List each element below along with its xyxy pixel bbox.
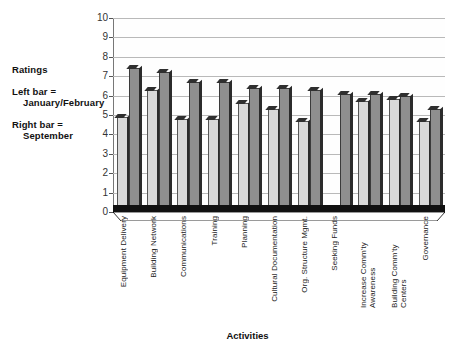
bar-top-face xyxy=(265,106,277,110)
bar-top-face xyxy=(126,65,138,69)
bar-jan-feb xyxy=(419,121,430,212)
legend-ratings-label: Ratings xyxy=(12,64,112,75)
x-axis-category-label: Building Network xyxy=(149,216,158,278)
bar-september xyxy=(370,94,381,212)
bar-jan-feb xyxy=(177,119,188,212)
bar-jan-feb xyxy=(147,90,158,212)
x-axis-category-label: Planning xyxy=(240,216,249,248)
bar-september xyxy=(310,90,321,212)
bar-top-face xyxy=(416,118,428,122)
x-axis-category-label: Training xyxy=(210,216,219,245)
bar-september xyxy=(219,82,230,212)
x-axis-category-label: Building Comm'ty Centers xyxy=(391,216,408,308)
y-axis-tick-label: 4 xyxy=(102,129,108,139)
x-axis-category-label: Seeking Funds xyxy=(330,216,339,271)
chart-figure: Ratings Left bar = January/February Righ… xyxy=(0,0,459,353)
bar-top-face xyxy=(175,116,187,120)
bar-top-face xyxy=(428,106,440,110)
bar-top-face xyxy=(205,116,217,120)
bar-top-face xyxy=(186,79,198,83)
legend-right-bar-line2: September xyxy=(12,130,112,141)
bar-group xyxy=(234,18,264,212)
bar-top-face xyxy=(356,98,368,102)
x-axis-category-label: Org. Structure Mgmt. xyxy=(300,216,309,293)
x-axis-category-label: Cultural Documentation xyxy=(270,216,279,302)
bar-top-face xyxy=(386,96,398,100)
bar-top-face xyxy=(367,91,379,95)
y-axis-tick-label: 2 xyxy=(102,168,108,178)
bar-september xyxy=(279,88,290,212)
bar-september xyxy=(249,88,260,212)
bar-jan-feb xyxy=(389,99,400,212)
bar-side-face xyxy=(199,80,202,210)
legend-spacer-1 xyxy=(12,75,112,86)
y-axis-tick-label: 7 xyxy=(102,71,108,81)
bar-side-face xyxy=(169,70,172,210)
bar-group xyxy=(264,18,294,212)
bar-top-face xyxy=(307,87,319,91)
bar-top-face xyxy=(277,85,289,89)
bar-group xyxy=(385,18,415,212)
bar-jan-feb xyxy=(298,121,309,212)
bar-top-face xyxy=(156,69,168,73)
bar-group xyxy=(143,18,173,212)
x-axis-category-label: Communications xyxy=(179,216,188,277)
bar-jan-feb xyxy=(238,103,249,212)
x-axis-category-label: Equipment Delivery xyxy=(119,216,128,287)
bar-group xyxy=(354,18,384,212)
bar-side-face xyxy=(259,86,262,211)
y-axis-tick-label: 8 xyxy=(102,52,108,62)
plot-area: 012345678910 xyxy=(113,18,445,212)
bar-group xyxy=(294,18,324,212)
y-axis-tick-label: 9 xyxy=(102,32,108,42)
bar-top-face xyxy=(337,91,349,95)
bar-side-face xyxy=(350,91,353,210)
bar-side-face xyxy=(440,107,443,210)
bar-september xyxy=(430,109,441,212)
bar-group xyxy=(415,18,445,212)
bar-top-face xyxy=(144,87,156,91)
y-axis-tick-label: 1 xyxy=(102,188,108,198)
bar-group xyxy=(324,18,354,212)
chart-legend: Ratings Left bar = January/February Righ… xyxy=(12,64,112,141)
legend-right-bar-line1: Right bar = xyxy=(12,119,112,130)
x-axis-category-label: Governance xyxy=(421,216,430,261)
bar-top-face xyxy=(397,93,409,97)
bar-side-face xyxy=(410,93,413,210)
legend-left-bar-line1: Left bar = xyxy=(12,86,112,97)
bar-group xyxy=(113,18,143,212)
bar-september xyxy=(159,72,170,212)
bar-september xyxy=(129,68,140,212)
bar-jan-feb xyxy=(117,117,128,212)
x-axis-title-text: Activities xyxy=(226,330,268,341)
bar-september xyxy=(400,96,411,212)
y-axis-tick-label: 6 xyxy=(102,91,108,101)
bar-group xyxy=(173,18,203,212)
bar-top-face xyxy=(247,85,259,89)
y-axis-tick-label: 0 xyxy=(102,207,108,217)
bar-top-face xyxy=(216,79,228,83)
bar-group xyxy=(204,18,234,212)
bar-series-container xyxy=(113,18,445,212)
bar-jan-feb xyxy=(208,119,219,212)
legend-left-bar-line2: January/February xyxy=(12,97,112,108)
bar-side-face xyxy=(229,80,232,210)
bar-top-face xyxy=(295,118,307,122)
bar-jan-feb xyxy=(268,109,279,212)
bar-side-face xyxy=(320,88,323,211)
bar-september xyxy=(340,94,351,212)
bar-top-face xyxy=(235,100,247,104)
x-axis-category-labels: Equipment DeliveryBuilding NetworkCommun… xyxy=(113,216,445,312)
bar-september xyxy=(189,82,200,212)
x-axis-title: Activities xyxy=(0,330,459,341)
bar-top-face xyxy=(114,114,126,118)
y-axis-tick-label: 3 xyxy=(102,149,108,159)
legend-spacer-2 xyxy=(12,108,112,119)
y-axis-tick-label: 10 xyxy=(97,13,108,23)
bar-side-face xyxy=(289,86,292,211)
bar-side-face xyxy=(380,91,383,210)
y-axis-tick-label: 5 xyxy=(102,110,108,120)
bar-side-face xyxy=(139,66,142,210)
bar-jan-feb xyxy=(358,101,369,212)
x-axis-category-label: Increase Comm'ty Awareness xyxy=(360,216,377,308)
